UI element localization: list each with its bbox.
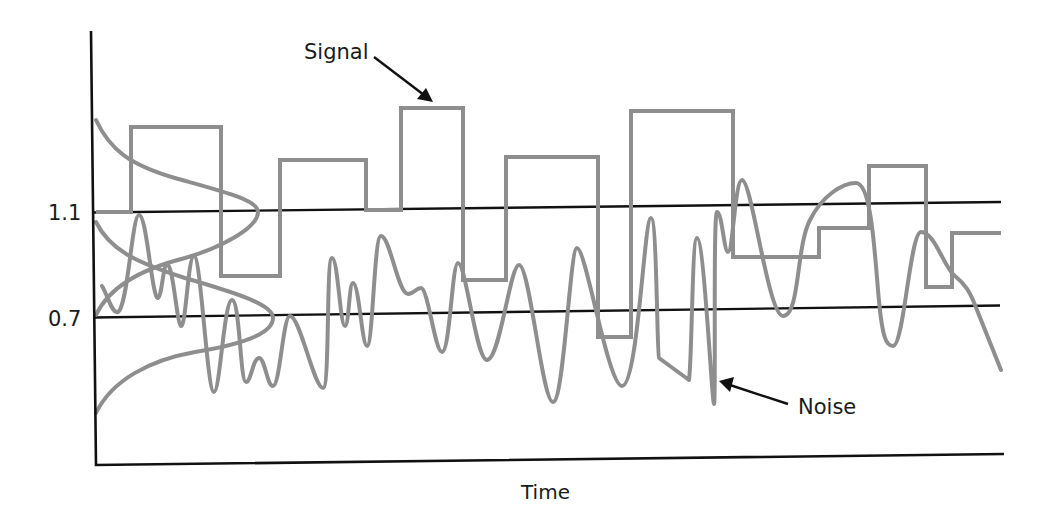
axes — [91, 31, 1004, 465]
threshold-line-1-1 — [93, 202, 1001, 213]
noise-arrow-line — [730, 385, 788, 404]
diagram-canvas: 1.1 0.7 Time Signal Noise — [0, 0, 1054, 509]
y-tick-label-1-1: 1.1 — [48, 201, 81, 225]
signal-step-line — [96, 108, 1001, 337]
signal-arrow-line — [374, 57, 424, 95]
signal-noise-diagram: 1.1 0.7 Time Signal Noise — [0, 0, 1054, 509]
noise-arrowhead-icon — [719, 377, 734, 392]
upper-distribution-curve — [96, 120, 258, 315]
noise-annotation-label: Noise — [798, 395, 856, 419]
signal-annotation-label: Signal — [304, 40, 369, 64]
x-axis-label: Time — [520, 480, 570, 504]
noise-waveform — [102, 180, 1001, 404]
y-tick-label-0-7: 0.7 — [48, 307, 81, 331]
